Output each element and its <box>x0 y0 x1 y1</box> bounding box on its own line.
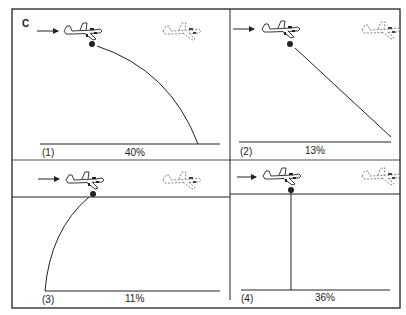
ghost-airplane-icon <box>362 22 400 39</box>
panel-index: (2) <box>240 146 252 157</box>
panel-index: (4) <box>241 293 253 304</box>
panel-1: (1) 40% <box>37 23 220 158</box>
trajectory-path <box>295 48 391 137</box>
panel-index: (3) <box>42 294 54 305</box>
airplane-icon <box>262 21 300 38</box>
panel-2: (2) 13% <box>233 21 400 157</box>
ghost-airplane-icon <box>163 172 201 189</box>
panel-index: (1) <box>42 147 54 158</box>
panel-percent: 40% <box>125 147 145 158</box>
panel-3: (3) 11% <box>12 172 230 305</box>
trajectory-path <box>45 197 89 291</box>
dropped-object-icon <box>288 187 294 193</box>
trajectory-path <box>97 46 198 144</box>
panel-percent: 36% <box>315 292 335 303</box>
dropped-object-icon <box>287 41 293 47</box>
ghost-airplane-icon <box>163 23 201 40</box>
figure-frame <box>12 9 400 308</box>
dropped-object-icon <box>89 41 95 47</box>
airplane-icon <box>64 23 102 40</box>
panel-percent: 11% <box>125 293 144 304</box>
airplane-icon <box>263 168 301 185</box>
ghost-airplane-icon <box>362 168 400 185</box>
panel-4: (4) 36% <box>230 168 400 304</box>
airplane-icon <box>66 172 104 189</box>
diagram-canvas: C (1) 40% (2) 13% (3) 11% <box>0 0 406 315</box>
dropped-object-icon <box>90 191 96 197</box>
corner-label: C <box>22 18 29 29</box>
panel-percent: 13% <box>305 145 325 156</box>
